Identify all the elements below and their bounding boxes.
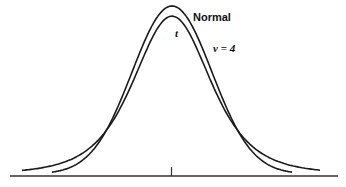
normal-curve [52,6,292,172]
distribution-chart: Normal t ν = 4 [0,0,346,187]
nu-label: ν = 4 [213,42,236,54]
t-label: t [175,27,179,39]
normal-label: Normal [193,11,231,23]
t-curve [22,16,320,170]
